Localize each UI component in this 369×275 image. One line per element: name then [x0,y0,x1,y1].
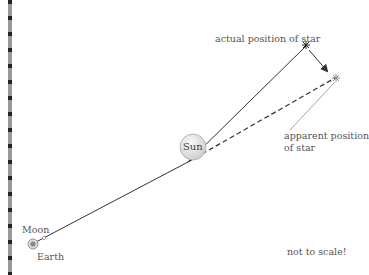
apparent-star-label-line1: apparent position [284,130,369,141]
actual-star-label: actual position of star [215,33,320,44]
earth-icon [28,239,38,249]
light-ray-earth-to-sun [36,162,188,242]
scale-note: not to scale! [287,246,347,257]
apparent-label-pointer [290,82,335,130]
sun-label: Sun [183,141,203,152]
earth-label: Earth [37,251,64,262]
moon-icon [42,236,45,239]
apparent-star-label-line2: of star [284,142,315,153]
displacement-arrow [309,50,327,71]
moon-label: Moon [22,224,49,235]
apparent-star-icon [332,74,340,82]
